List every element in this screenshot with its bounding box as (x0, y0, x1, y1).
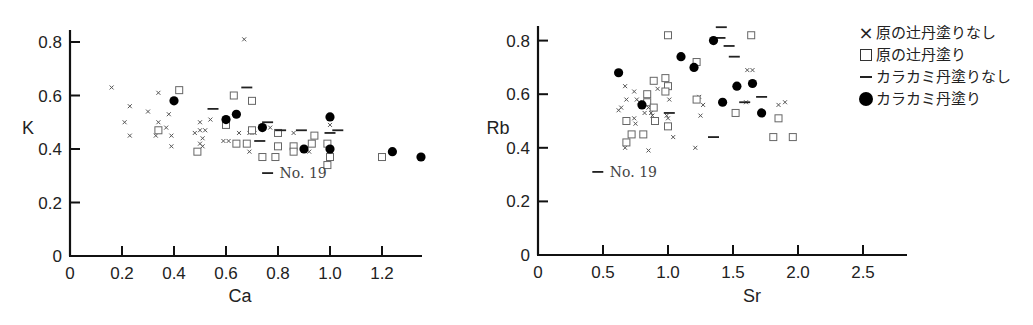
y-axis-label: Rb (486, 118, 509, 138)
cross-point (167, 112, 171, 116)
square-point (789, 134, 796, 141)
y-tick-label: 0.4 (506, 139, 530, 158)
square-point (628, 131, 635, 138)
legend-label: カラカミ丹塗りなし (876, 66, 1011, 88)
y-tick-label: 0.2 (38, 194, 62, 213)
square-point (249, 127, 256, 134)
ca-k-scatter-plot: 00.20.40.60.800.20.40.60.81.01.2CaKNo. 1… (22, 30, 426, 306)
circle-point (258, 123, 267, 132)
cross-point (632, 90, 636, 94)
square-point (770, 134, 777, 141)
square-point (693, 96, 700, 103)
x-tick-label: 0 (65, 264, 74, 283)
dash-marker-icon (858, 69, 874, 85)
square-marker-icon (858, 47, 874, 63)
square-point (230, 92, 237, 99)
x-axis-label: Sr (743, 286, 761, 306)
legend-label: 原の辻丹塗り (876, 44, 966, 66)
cross-point (777, 103, 781, 107)
square-point (379, 154, 386, 161)
y-tick-label: 0.6 (38, 87, 62, 106)
circle-point (757, 108, 766, 117)
square-point (272, 154, 279, 161)
y-tick-label: 0 (521, 246, 530, 265)
cross-point (783, 100, 787, 104)
cross-point (201, 136, 205, 140)
x-tick-label: 1.2 (370, 264, 394, 283)
circle-point (325, 112, 334, 121)
square-point (644, 91, 651, 98)
square-point (732, 109, 739, 116)
circle-point (232, 110, 241, 119)
square-point (748, 32, 755, 39)
square-point (623, 139, 630, 146)
cross-point (634, 122, 638, 126)
cross-point (624, 98, 628, 102)
annotation-label: No. 19 (610, 164, 657, 180)
circle-point (221, 115, 230, 124)
x-tick-label: 0.6 (214, 264, 238, 283)
square-point (176, 87, 183, 94)
series-cross (110, 37, 332, 153)
cross-marker-icon: × (858, 25, 874, 41)
square-point (650, 104, 657, 111)
x-tick-label: 0.2 (110, 264, 134, 283)
x-tick-label: 0.4 (162, 264, 186, 283)
circle-point (718, 98, 727, 107)
x-tick-label: 1.0 (318, 264, 342, 283)
circle-point (709, 36, 718, 45)
circle-point (388, 147, 397, 156)
cross-point (156, 91, 160, 95)
y-tick-label: 0.2 (506, 192, 530, 211)
legend-item-cross: × 原の辻丹塗りなし (858, 22, 1011, 44)
cross-point (128, 134, 132, 138)
x-tick-label: 2.0 (786, 263, 810, 282)
circle-point (169, 96, 178, 105)
square-point (650, 77, 657, 84)
square-point (662, 88, 669, 95)
cross-point (745, 68, 749, 72)
square-point (640, 131, 647, 138)
square-point (290, 148, 297, 155)
circle-point (689, 63, 698, 72)
legend-item-dash: カラカミ丹塗りなし (858, 66, 1011, 88)
cross-point (701, 103, 705, 107)
x-tick-label: 1.0 (656, 263, 680, 282)
cross-point (268, 126, 272, 130)
x-tick-label: 0.5 (591, 263, 615, 282)
cross-point (208, 118, 212, 122)
square-point (275, 143, 282, 150)
cross-point (123, 120, 127, 124)
circle-point (299, 144, 308, 153)
square-point (259, 154, 266, 161)
cross-point (237, 131, 241, 135)
cross-point (193, 131, 197, 135)
series-dash (592, 27, 767, 172)
cross-point (693, 146, 697, 150)
annotation-label: No. 19 (280, 165, 327, 181)
cross-point (699, 114, 703, 118)
series-filled-circle (614, 36, 766, 118)
square-point (662, 75, 669, 82)
x-axis-label: Ca (228, 286, 252, 306)
cross-point (647, 148, 651, 152)
square-point (308, 140, 315, 147)
cross-point (146, 110, 150, 114)
circle-point (637, 100, 646, 109)
circle-point (416, 152, 425, 161)
y-tick-label: 0.6 (506, 85, 530, 104)
legend-item-square: 原の辻丹塗り (858, 44, 1011, 66)
legend-item-circle: カラカミ丹塗り (858, 88, 1011, 110)
cross-point (247, 150, 251, 154)
legend-label: カラカミ丹塗り (876, 88, 981, 110)
square-point (665, 123, 672, 130)
x-tick-label: 0 (533, 263, 542, 282)
square-point (243, 140, 250, 147)
cross-point (619, 106, 623, 110)
cross-point (164, 126, 168, 130)
square-point (327, 154, 334, 161)
cross-point (751, 68, 755, 72)
cross-point (632, 116, 636, 120)
cross-point (128, 104, 132, 108)
legend-label: 原の辻丹塗りなし (876, 22, 996, 44)
